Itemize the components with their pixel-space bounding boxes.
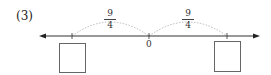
numerator: 9 [180,9,196,18]
denominator: 4 [180,21,196,30]
jump-label-left: 9 4 [102,9,118,30]
answer-box-left[interactable] [59,43,86,73]
answer-box-right[interactable] [214,41,241,72]
origin-label: 0 [146,39,152,49]
left-arrow-icon [39,34,46,39]
number-line-diagram: (3) 9 4 9 4 0 [0,0,271,75]
denominator: 4 [102,21,118,30]
numerator: 9 [102,9,118,18]
right-arrow-icon [253,34,260,39]
jump-label-right: 9 4 [180,9,196,30]
